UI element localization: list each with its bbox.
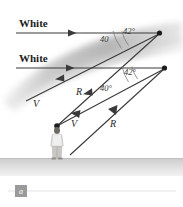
raindrop-lower <box>162 65 167 70</box>
label-ray-r-lower: R <box>110 119 116 129</box>
label-angle-lower-40: 40° <box>100 84 112 93</box>
rainbow-ray-diagram: White White 40 42° 40° 42° V R V R a <box>0 0 183 207</box>
label-ray-v-lower: V <box>71 119 77 129</box>
label-angle-lower-42: 42° <box>124 68 136 77</box>
ground-strip <box>0 158 183 176</box>
observer-person <box>51 123 63 159</box>
raindrop-upper <box>157 30 162 35</box>
label-angle-upper-42: 42° <box>123 27 135 36</box>
panel-label-badge: a <box>15 185 27 197</box>
label-angle-upper-40: 40 <box>100 35 109 44</box>
label-white-upper: White <box>19 18 48 29</box>
label-white-lower: White <box>19 53 48 64</box>
label-ray-r-upper: R <box>76 87 82 97</box>
label-ray-v-upper: V <box>33 99 39 109</box>
diagram-canvas <box>0 0 183 207</box>
